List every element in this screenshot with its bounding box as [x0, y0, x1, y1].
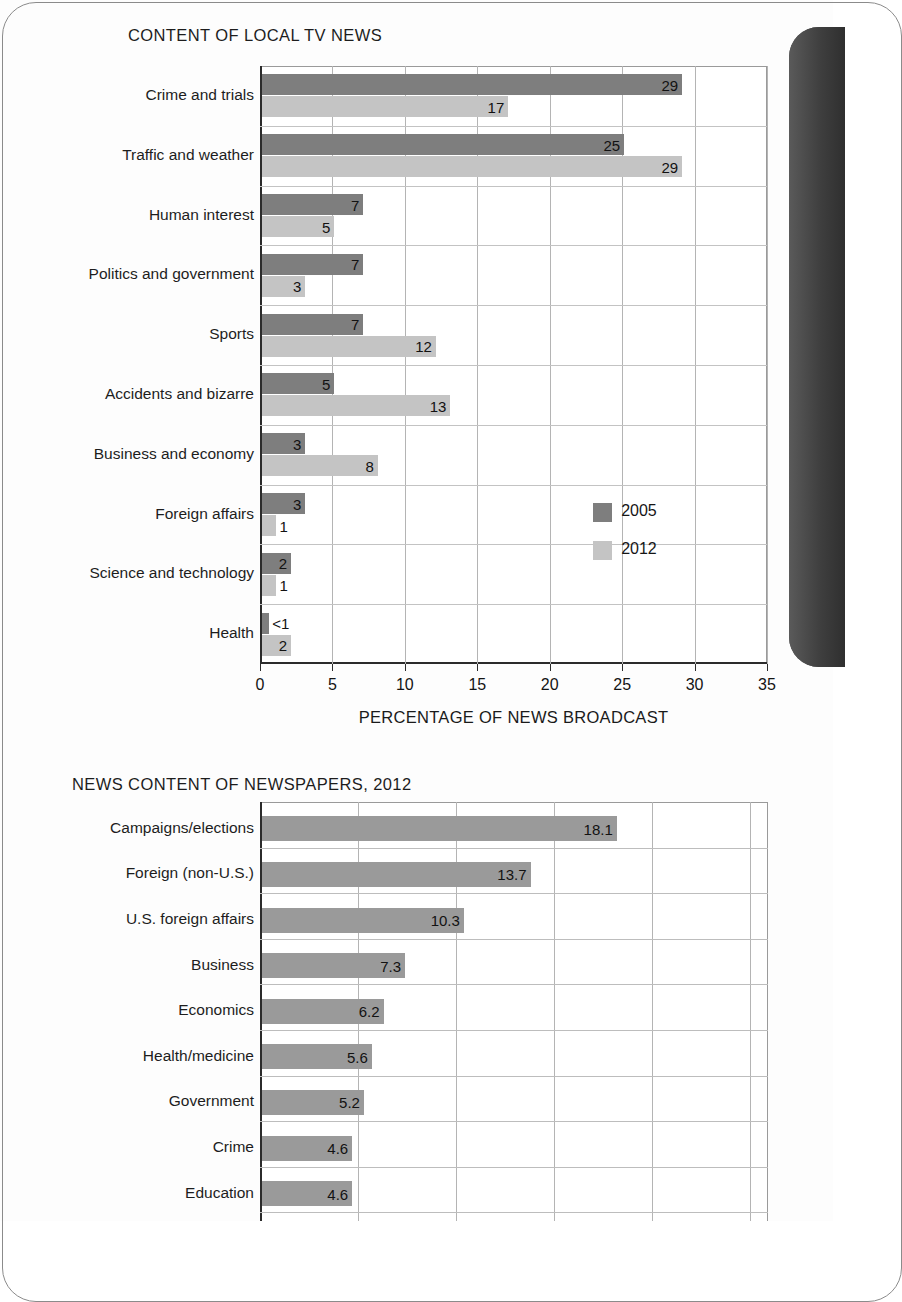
- chart1-legend-swatch: [593, 503, 612, 522]
- chart2-bar: 18.1: [262, 816, 617, 841]
- chart2-category-label: U.S. foreign affairs: [10, 910, 254, 928]
- chart1-bar-2012: 29: [262, 156, 682, 177]
- chart2-bar-value: 13.7: [497, 867, 526, 882]
- chart1-bar-2005: 3: [262, 433, 305, 454]
- chart1-bar-2012: 17: [262, 96, 508, 117]
- chart1-category-label: Traffic and weather: [10, 146, 254, 164]
- chart1-bar-2012: 1: [262, 575, 276, 596]
- chart1-bar-value-2005: 25: [603, 137, 620, 152]
- chart1-plot-area: 291725297573712513383121<1220052012: [260, 66, 767, 664]
- chart2-bar-value: 5.6: [347, 1049, 368, 1064]
- chart1-bar-value-2005: 3: [293, 436, 301, 451]
- chart1-x-tick-label: 25: [613, 676, 631, 694]
- chart1-bar-value-2012: 2: [279, 638, 287, 653]
- chart1-bar-value-2005: 29: [661, 77, 678, 92]
- chart1-legend-label: 2005: [621, 502, 657, 520]
- chart1-bar-2012: 1: [262, 515, 276, 536]
- chart1-tick-mark: [767, 664, 768, 671]
- chart1-bar-value-2012: 13: [430, 398, 447, 413]
- chart2-bar: 13.7: [262, 862, 531, 887]
- chart1-bar-value-2012: 17: [488, 99, 505, 114]
- chart1-axis-line-x: [260, 662, 767, 664]
- chart2-bar: 10.3: [262, 908, 464, 933]
- chart2-title: NEWS CONTENT OF NEWSPAPERS, 2012: [72, 775, 412, 794]
- chart1-gridline-h: [260, 245, 767, 246]
- chart1-x-tick-label: 30: [686, 676, 704, 694]
- chart1-bar-2012: 12: [262, 336, 436, 357]
- chart1-bar-2012: 5: [262, 216, 334, 237]
- chart1-gridline-h: [260, 305, 767, 306]
- chart1-bar-value-2005: 2: [279, 556, 287, 571]
- chart1-bar-2005: 3: [262, 493, 305, 514]
- chart2-gridline-h: [260, 1167, 768, 1168]
- chart1-tick-mark: [332, 664, 333, 671]
- chart1-tick-mark: [550, 664, 551, 671]
- chart1-bar-2012: 2: [262, 635, 291, 656]
- chart2-plot-area: 18.113.710.37.36.25.65.24.64.6: [260, 802, 768, 1221]
- chart2-gridline-h: [260, 1030, 768, 1031]
- chart1-category-label: Politics and government: [10, 265, 254, 283]
- chart1-x-axis-title: PERCENTAGE OF NEWS BROADCAST: [359, 708, 669, 727]
- chart1-category-label: Health: [10, 624, 254, 642]
- chart1-category-label: Science and technology: [10, 564, 254, 582]
- chart1-bar-value-2012: 3: [293, 279, 301, 294]
- chart1-bar-2005: 25: [262, 134, 624, 155]
- chart1-bar-value-2005: 7: [351, 197, 359, 212]
- chart2-gridline-h: [260, 1121, 768, 1122]
- chart1-bar-value-2012: 5: [322, 219, 330, 234]
- chart1-gridline-h: [260, 365, 767, 366]
- chart1-x-tick-label: 15: [468, 676, 486, 694]
- chart1-bar-value-2012: 8: [366, 458, 374, 473]
- chart2-category-label: Health/medicine: [10, 1047, 254, 1065]
- chart2-bar: 5.6: [262, 1044, 372, 1069]
- chart2-frame-right: [767, 802, 768, 1221]
- chart1-tick-mark: [260, 664, 261, 671]
- chart1-bar-2012: 8: [262, 455, 378, 476]
- chart1-category-label: Human interest: [10, 206, 254, 224]
- chart2-bar-value: 10.3: [431, 913, 460, 928]
- chart1-gridline-h: [260, 604, 767, 605]
- chart2-category-label: Education: [10, 1184, 254, 1202]
- chart2-bar: 5.2: [262, 1090, 364, 1115]
- chart2-bar-value: 18.1: [584, 821, 613, 836]
- chart2-gridline-h: [260, 1212, 768, 1213]
- chart1-tick-mark: [622, 664, 623, 671]
- chart2-gridline-h: [260, 984, 768, 985]
- chart2-bar-value: 4.6: [327, 1141, 348, 1156]
- chart1-bar-value-2012: 1: [279, 578, 287, 593]
- chart1-tick-mark: [477, 664, 478, 671]
- chart2-bar-value: 6.2: [359, 1004, 380, 1019]
- chart1-category-label: Foreign affairs: [10, 505, 254, 523]
- chart2-gridline-h: [260, 939, 768, 940]
- chart2-bar-value: 4.6: [327, 1186, 348, 1201]
- chart1-x-tick-label: 35: [758, 676, 776, 694]
- chart1-bar-2005: 5: [262, 373, 334, 394]
- chart1-x-tick-label: 20: [541, 676, 559, 694]
- chart1-tick-mark: [405, 664, 406, 671]
- chart2-category-label: Campaigns/elections: [10, 819, 254, 837]
- chart1-category-label: Sports: [10, 325, 254, 343]
- chart1-gridline-h: [260, 425, 767, 426]
- chart1-bar-value-2005: 5: [322, 376, 330, 391]
- chart1-bar-2012: 3: [262, 276, 305, 297]
- chart1-bar-2012: 13: [262, 395, 450, 416]
- chart1-tick-mark: [695, 664, 696, 671]
- chart2-frame-top: [260, 802, 768, 803]
- chart1-legend-swatch: [593, 541, 612, 560]
- chart1-title: CONTENT OF LOCAL TV NEWS: [128, 26, 382, 45]
- chart2-gridline-v: [750, 802, 751, 1221]
- chart2-gridline-h: [260, 1076, 768, 1077]
- chart1-frame-top: [260, 66, 767, 67]
- chart1-x-tick-label: 5: [328, 676, 337, 694]
- chart1-gridline-h: [260, 544, 767, 545]
- chart1-gridline-v: [767, 66, 768, 664]
- chart1-bar-2005: 7: [262, 194, 363, 215]
- chart2-bar: 4.6: [262, 1136, 352, 1161]
- chart2-category-label: Foreign (non-U.S.): [10, 864, 254, 882]
- chart1-bar-value-2005: 3: [293, 496, 301, 511]
- chart2-category-label: Crime: [10, 1138, 254, 1156]
- chart1-gridline-h: [260, 126, 767, 127]
- chart2-bar: 6.2: [262, 999, 384, 1024]
- chart1-bar-value-2005: <1: [272, 616, 289, 631]
- chart2-bar: 7.3: [262, 953, 405, 978]
